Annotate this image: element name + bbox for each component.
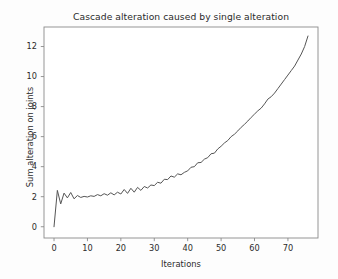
x-tick-label: 70: [278, 244, 298, 252]
plot-canvas: [0, 0, 338, 279]
y-tick-label: 2: [17, 193, 37, 201]
screenshot-root: Cascade alteration caused by single alte…: [0, 0, 338, 279]
y-tick-label: 10: [17, 72, 37, 80]
x-tick-label: 40: [178, 244, 198, 252]
x-tick-label: 0: [44, 244, 64, 252]
y-tick-label: 8: [17, 102, 37, 110]
y-tick-label: 4: [17, 162, 37, 170]
x-tick-label: 60: [245, 244, 265, 252]
x-tick-label: 10: [77, 244, 97, 252]
y-tick-label: 0: [17, 223, 37, 231]
x-tick-label: 50: [211, 244, 231, 252]
y-tick-label: 12: [17, 42, 37, 50]
x-tick-label: 30: [144, 244, 164, 252]
plot-background: [44, 27, 318, 238]
y-tick-marks: [41, 47, 44, 227]
matplotlib-figure: Cascade alteration caused by single alte…: [0, 0, 338, 279]
x-tick-label: 20: [111, 244, 131, 252]
x-tick-marks: [54, 238, 288, 241]
y-tick-label: 6: [17, 132, 37, 140]
